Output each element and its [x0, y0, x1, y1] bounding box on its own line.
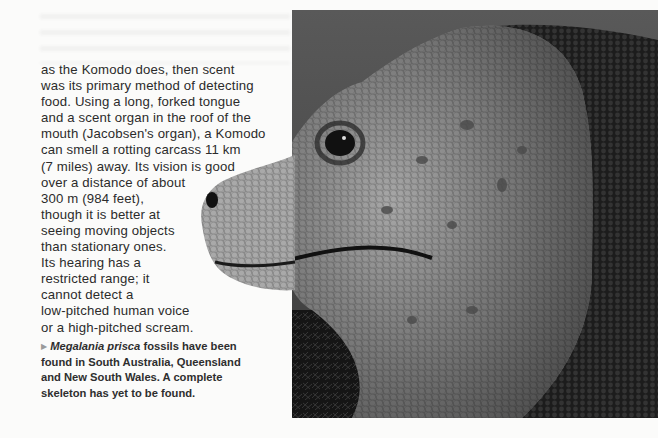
body-line: was its primary method of detecting: [41, 78, 266, 94]
body-line: as the Komodo does, then scent: [41, 62, 266, 78]
caption-line: found in South Australia, Queensland: [41, 355, 266, 371]
body-line: Its hearing has a: [41, 255, 266, 271]
body-line: or a high-pitched scream.: [41, 320, 266, 336]
lizard-head-illustration: [292, 10, 658, 418]
body-line: and a scent organ in the roof of the: [41, 110, 266, 126]
body-line: seeing moving objects: [41, 223, 266, 239]
caption-line: ▶Megalania prisca fossils have been: [41, 339, 266, 355]
species-name: Megalania prisca: [50, 340, 140, 352]
body-line: can smell a rotting carcass 11 km: [41, 142, 266, 158]
body-line: food. Using a long, forked tongue: [41, 94, 266, 110]
show-through-text: [40, 14, 290, 64]
body-line: though it is better at: [41, 207, 266, 223]
caption-line: skeleton has yet to be found.: [41, 386, 266, 402]
body-line: restricted range; it: [41, 271, 266, 287]
caption-text: fossils have been: [140, 340, 236, 352]
caption-line: and New South Wales. A complete: [41, 370, 266, 386]
body-line: over a distance of about: [41, 175, 266, 191]
body-line: low-pitched human voice: [41, 303, 266, 319]
body-line: than stationary ones.: [41, 239, 266, 255]
body-line: mouth (Jacobsen's organ), a Komodo: [41, 126, 266, 142]
photo-caption: ▶Megalania prisca fossils have been foun…: [41, 339, 266, 401]
megalania-photo: [292, 10, 658, 418]
body-line: 300 m (984 feet),: [41, 191, 266, 207]
body-line: cannot detect a: [41, 287, 266, 303]
body-line: (7 miles) away. Its vision is good: [41, 159, 266, 175]
body-paragraph: as the Komodo does, then scent was its p…: [41, 62, 266, 336]
triangle-right-icon: ▶: [41, 342, 47, 351]
